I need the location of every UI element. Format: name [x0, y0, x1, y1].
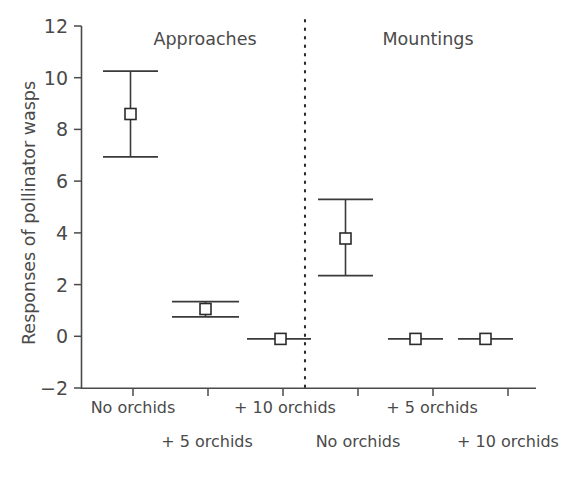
y-tick-label-0: 0 — [56, 325, 68, 347]
x-label-plus10-orchids-mountings: + 10 orchids — [457, 432, 559, 451]
mean-marker-square — [125, 109, 136, 120]
y-tick-label-10: 10 — [44, 67, 68, 89]
error-bar-chart: 12 10 8 6 4 2 0 −2 Responses of pollinat… — [0, 0, 561, 480]
mean-marker-square — [480, 333, 491, 344]
y-tick-label-6: 6 — [56, 170, 68, 192]
y-tick-label-12: 12 — [44, 15, 68, 37]
panel-title-mountings: Mountings — [382, 29, 473, 49]
x-label-no-orchids-approaches: No orchids — [91, 398, 176, 417]
y-axis-title: Responses of pollinator wasps — [19, 81, 39, 345]
datapoint-approaches-plus10-orchids — [247, 333, 311, 344]
y-tick-label-4: 4 — [56, 222, 68, 244]
mean-marker-square — [340, 233, 351, 244]
mean-marker-square — [275, 333, 286, 344]
data-group-mountings — [318, 199, 513, 344]
datapoint-approaches-plus5-orchids — [172, 302, 239, 317]
data-group-approaches — [103, 71, 311, 344]
y-tick-label-neg2: −2 — [40, 377, 68, 399]
y-tick-label-2: 2 — [56, 274, 68, 296]
datapoint-approaches-no-orchids — [103, 71, 158, 157]
mean-marker-square — [410, 333, 421, 344]
mean-marker-square — [200, 304, 211, 315]
x-label-plus5-orchids-mountings: + 5 orchids — [386, 398, 478, 417]
x-label-plus10-orchids-approaches: + 10 orchids — [234, 398, 336, 417]
datapoint-mountings-plus5-orchids — [388, 333, 443, 344]
panel-title-approaches: Approaches — [153, 29, 256, 49]
y-axis: 12 10 8 6 4 2 0 −2 Responses of pollinat… — [19, 15, 82, 399]
x-label-plus5-orchids-approaches: + 5 orchids — [161, 432, 253, 451]
chart-figure: 12 10 8 6 4 2 0 −2 Responses of pollinat… — [0, 0, 561, 480]
datapoint-mountings-no-orchids — [318, 199, 373, 275]
x-axis: No orchids + 10 orchids + 5 orchids + 5 … — [82, 388, 559, 451]
y-tick-label-8: 8 — [56, 118, 68, 140]
x-label-no-orchids-mountings: No orchids — [316, 432, 401, 451]
datapoint-mountings-plus10-orchids — [458, 333, 513, 344]
